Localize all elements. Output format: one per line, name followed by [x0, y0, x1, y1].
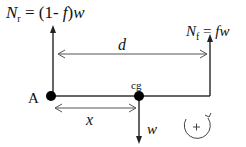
front-force-fw: fw: [215, 23, 229, 39]
distance-d-arrow: [58, 50, 207, 58]
beam-force-diagram: Nr = (1- f)w Nf = fw d x A cg w: [0, 0, 246, 147]
point-a-dot: [46, 91, 56, 101]
weight-label: w: [147, 122, 157, 137]
cg-dot: [134, 91, 144, 101]
front-force-subscript: f: [196, 31, 199, 42]
point-a-label: A: [28, 91, 39, 106]
distance-x-arrow: [55, 104, 136, 112]
rear-force-subscript: r: [17, 13, 20, 24]
distance-x-label: x: [86, 112, 93, 128]
counterclockwise-positive-icon: [184, 113, 211, 138]
rear-force-expression: = (1-: [25, 3, 63, 22]
rear-force-symbol: N: [6, 3, 17, 22]
front-force-symbol: N: [186, 23, 196, 39]
rear-force-label: Nr = (1- f)w: [6, 4, 85, 21]
distance-d-label: d: [118, 37, 126, 53]
front-force-expression: =: [203, 23, 215, 39]
cg-label: cg: [131, 80, 141, 91]
rear-force-w: w: [73, 3, 84, 22]
front-force-label: Nf = fw: [186, 24, 230, 39]
